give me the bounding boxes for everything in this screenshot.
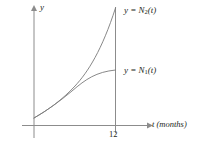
curve-label-n1-suffix: (t) xyxy=(148,65,157,75)
curve-n2 xyxy=(34,8,116,118)
curve-label-n1-prefix: y = N xyxy=(124,65,145,75)
x-axis xyxy=(22,123,153,129)
y-axis-arrowhead xyxy=(31,5,37,11)
curve-label-n1: y = N1(t) xyxy=(124,66,156,76)
curve-label-n2-prefix: y = N xyxy=(124,5,145,15)
population-growth-figure: y y = N2(t) y = N1(t) t (months) 12 xyxy=(0,0,205,149)
curve-n1 xyxy=(34,70,116,118)
y-axis-label: y xyxy=(40,3,44,12)
x-axis-label: t (months) xyxy=(152,120,187,129)
curve-label-n2: y = N2(t) xyxy=(124,6,156,16)
curve-label-n2-suffix: (t) xyxy=(148,5,157,15)
x-tick-label-12: 12 xyxy=(109,130,118,139)
